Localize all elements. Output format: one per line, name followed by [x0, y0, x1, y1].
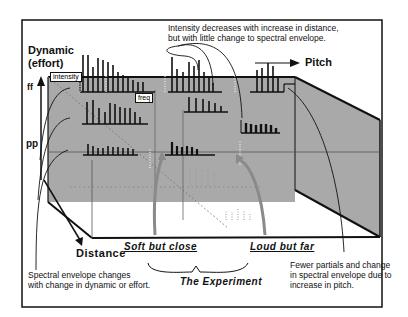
- dynamic-pitch-plane: [48, 77, 295, 202]
- pitch-annotation-line1: Fewer partials and change: [290, 260, 392, 270]
- loud-but-far-label: Loud but far: [250, 241, 314, 252]
- timbre-space-diagram: Dynamic (effort) ff pp Pitch Distance in…: [0, 0, 408, 317]
- distance-annotation: Intensity decreases with increase in dis…: [168, 23, 339, 43]
- distance-annotation-line2: but with little change to spectral envel…: [168, 33, 339, 43]
- intensity-label-box: intensity: [50, 72, 82, 82]
- dynamic-label-line1: Dynamic: [28, 44, 74, 57]
- pp-label: pp: [26, 138, 38, 149]
- soft-but-close-label: Soft but close: [124, 241, 197, 252]
- distance-annotation-line1: Intensity decreases with increase in dis…: [168, 23, 339, 33]
- ff-label: ff: [27, 82, 33, 92]
- dynamic-annotation: Spectral envelope changes with change in…: [28, 270, 150, 290]
- pitch-annotation: Fewer partials and change in spectral en…: [290, 260, 392, 290]
- pitch-annotation-line2: in spectral envelope due to: [290, 270, 392, 280]
- dynamic-annotation-line2: with change in dynamic or effort.: [28, 280, 150, 290]
- freq-label-box: freq: [135, 93, 153, 103]
- pitch-axis-label: Pitch: [305, 56, 332, 68]
- dynamic-axis-label: Dynamic (effort): [28, 44, 74, 70]
- distance-axis-label: Distance: [76, 247, 126, 259]
- dynamic-label-line2: (effort): [28, 57, 74, 70]
- dynamic-annotation-line1: Spectral envelope changes: [28, 270, 150, 280]
- experiment-title: The Experiment: [180, 276, 262, 287]
- pitch-annotation-line3: increase in pitch.: [290, 280, 392, 290]
